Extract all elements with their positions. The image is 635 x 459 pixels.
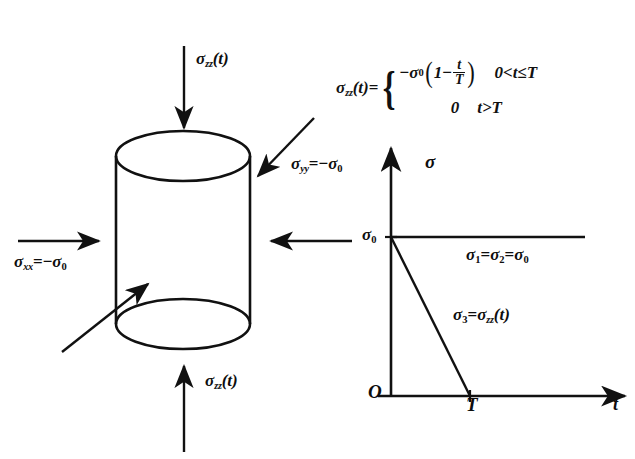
label-lateral-stress-left: σxx=−σ0 bbox=[14, 253, 67, 272]
stress-loading-figure: σzz(t) σzz(t) σxx=−σ0 σyy=−σ0 σzz(t)= { … bbox=[0, 0, 635, 459]
equation-case-2-condition: t>T bbox=[477, 98, 502, 118]
equation-case-1-condition: 0<t≤T bbox=[494, 63, 537, 83]
plot-axes bbox=[378, 148, 625, 396]
equation-lhs: σzz(t)= bbox=[336, 78, 378, 98]
label-axial-stress-bottom: σzz(t) bbox=[205, 372, 238, 391]
equation-case-2-value: 0 bbox=[451, 98, 460, 118]
cylinder-bottom-ellipse bbox=[116, 299, 250, 349]
origin-label: O bbox=[368, 382, 382, 401]
figure-vector-layer bbox=[0, 0, 635, 459]
x-axis-label: t bbox=[613, 395, 618, 413]
x-tick-label-T: T bbox=[466, 395, 478, 414]
piecewise-equation: σzz(t)= { −σ0(1−tT) 0<t≤T 0 t>T bbox=[336, 58, 537, 118]
label-axial-stress-top: σzz(t) bbox=[196, 50, 229, 69]
load-arrow-group bbox=[18, 46, 352, 452]
y-axis-label: σ bbox=[425, 152, 435, 171]
label-lateral-stress-right: σyy=−σ0 bbox=[291, 155, 343, 174]
equation-case-2: 0 t>T bbox=[400, 98, 538, 118]
y-tick-label-sigma0: σ0 bbox=[362, 226, 376, 245]
series-label-sigma3: σ3=σzz(t) bbox=[453, 306, 510, 325]
equation-case-1: −σ0(1−tT) 0<t≤T bbox=[400, 58, 538, 87]
cylinder-top-ellipse bbox=[116, 131, 250, 181]
label-axial-stress-top-sub: zz bbox=[205, 58, 213, 69]
series-label-sigma1-sigma2: σ1=σ2=σ0 bbox=[466, 246, 529, 265]
equation-brace-icon: { bbox=[383, 70, 396, 107]
cylinder-specimen bbox=[116, 131, 250, 349]
